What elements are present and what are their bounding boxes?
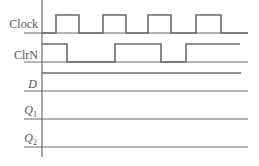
grid-lines [24,0,248,157]
label-d: D [27,77,37,91]
label-q1: Q1 [24,103,37,119]
label-q2: Q2 [24,131,37,147]
label-q2-sub: 2 [33,138,37,147]
waveforms [42,15,248,73]
label-q1-main: Q [24,103,33,117]
timing-diagram: Clock ClrN D Q1 Q2 [0,0,259,166]
waveform-clock [42,15,248,33]
label-q1-sub: 1 [33,110,37,119]
label-q2-main: Q [24,131,33,145]
label-clrn: ClrN [14,48,38,62]
waveform-clrn [42,44,240,62]
label-clock: Clock [9,17,38,31]
